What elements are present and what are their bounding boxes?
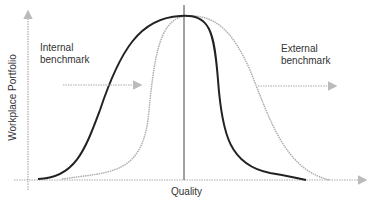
x-axis-label: Quality — [171, 186, 202, 198]
internal-benchmark-label-line1: Internal — [40, 42, 73, 54]
internal-benchmark-label-line2: benchmark — [40, 54, 89, 66]
y-axis-label: Workplace Portfolio — [7, 48, 18, 148]
external-curve — [62, 16, 330, 180]
internal-curve — [38, 16, 306, 180]
external-benchmark-label-line1: External — [281, 43, 318, 55]
external-benchmark-label-line2: benchmark — [281, 55, 330, 67]
diagram: Workplace Portfolio Internal benchmark E… — [0, 0, 384, 198]
diagram-graphics — [0, 0, 384, 198]
